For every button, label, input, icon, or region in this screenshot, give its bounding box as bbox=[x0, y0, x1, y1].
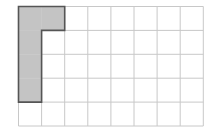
grid-diagram bbox=[0, 0, 209, 130]
shaded-cell bbox=[19, 7, 42, 31]
shaded-cell bbox=[19, 30, 42, 54]
shaded-cell bbox=[19, 78, 42, 102]
shaded-cell bbox=[42, 7, 65, 31]
shaded-cell bbox=[19, 54, 42, 78]
